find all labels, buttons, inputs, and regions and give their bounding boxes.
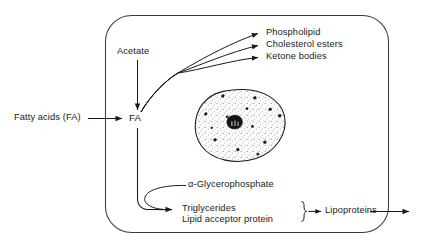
label-lipid-acceptor-protein: Lipid acceptor protein	[182, 214, 273, 225]
label-fatty-acids-external: Fatty acids (FA)	[14, 112, 81, 123]
label-fa-node: FA	[129, 112, 141, 123]
label-cholesterol-esters: Cholesterol esters	[266, 39, 343, 50]
grouping-brace	[302, 202, 307, 222]
label-ketone-bodies: Ketone bodies	[266, 51, 327, 62]
label-lipoproteins: Lipoproteins	[325, 205, 377, 216]
label-acetate: Acetate	[117, 46, 149, 57]
label-triglycerides: Triglycerides	[182, 203, 236, 214]
fa-downward-stem	[138, 128, 173, 210]
glycerophosphate-hook	[145, 185, 186, 209]
nucleolus	[227, 115, 242, 129]
label-glycerophosphate: α-Glycerophosphate	[188, 179, 274, 190]
label-phospholipid: Phospholipid	[266, 27, 320, 38]
diagram-canvas: Fatty acids (FA) FA Acetate Phospholipid…	[0, 0, 425, 250]
